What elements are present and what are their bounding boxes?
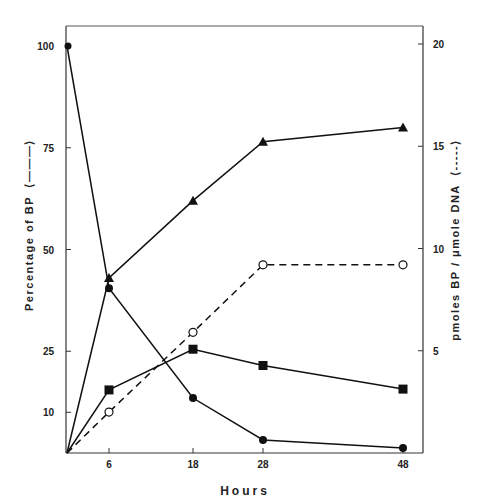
x-axis-ticks: 6182848 [106,448,409,470]
filled-circle-marker [189,394,197,402]
left-y-tick-label: 75 [43,143,55,154]
open-circle-marker [105,408,113,416]
left-y-tick-label: 10 [43,407,55,418]
filled-triangle-marker [398,122,408,131]
right-axis-title-group: pmoles BP / μmole DNA ⟨-----⟩ [449,139,461,341]
left-y-tick-label: 100 [37,41,54,52]
left-axis-title-group: Percentage of BP ⟨———⟩ [23,139,35,311]
x-tick-label: 48 [397,459,409,470]
right-y-tick-label: 20 [433,39,445,50]
filled-circle-marker [65,43,72,50]
right-axis-title: pmoles BP / μmole DNA [449,185,461,341]
plot-frame [66,26,423,453]
left-y-tick-label: 50 [43,245,55,256]
filled-square-marker [189,345,198,354]
filled-circle-marker [399,444,407,452]
filled-circle-marker [259,436,267,444]
series-filled-circle [65,43,408,453]
x-tick-label: 28 [257,459,269,470]
series-filled-triangle [67,122,408,453]
right-y-tick-label: 15 [433,141,445,152]
solid-line [67,46,403,448]
right-y-tick-label: 5 [433,346,439,357]
svg-text:Percentage of BP ⟨———⟩: Percentage of BP ⟨———⟩ [23,139,35,311]
solid-line [67,349,403,453]
right-axis-legend-dashed: ⟨-----⟩ [449,139,461,176]
filled-square-marker [399,385,408,394]
series-filled-square [67,345,408,453]
x-tick-label: 18 [187,459,199,470]
open-circle-marker [399,261,407,269]
solid-line [67,127,403,453]
left-axis-title: Percentage of BP [23,196,35,311]
svg-text:pmoles BP / μmole DNA ⟨-: pmoles BP / μmole DNA ⟨-----⟩ [449,139,461,341]
filled-square-marker [105,385,114,394]
open-circle-marker [259,261,267,269]
chart: 6182848 10255075100 5101520 Hours Percen… [0,0,484,504]
filled-square-marker [259,361,268,370]
open-circle-marker [189,328,197,336]
data-series [65,43,409,454]
right-y-tick-label: 10 [433,244,445,255]
x-axis-title: Hours [220,484,270,498]
left-y-tick-label: 25 [43,346,55,357]
right-y-axis-ticks: 5101520 [418,39,445,357]
x-tick-label: 6 [106,459,112,470]
left-axis-legend-solid: ⟨———⟩ [23,139,35,188]
